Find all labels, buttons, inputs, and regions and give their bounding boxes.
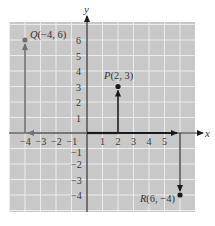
x-tick-label: 1 [100,136,105,147]
point-q-dot [22,37,27,42]
x-axis-label: x [204,127,210,139]
point-r-label: R(6, −4) [139,193,176,205]
y-tick-label: 4 [76,66,81,77]
y-tick-label: 3 [76,82,81,93]
point-p-label: P(2, 3) [103,70,134,82]
point-r-dot [177,192,182,197]
x-tick-label: −1 [67,136,78,147]
x-tick-label: 5 [162,136,167,147]
x-tick-label: 3 [131,136,136,147]
x-tick-label: 4 [147,136,152,147]
x-tick-label: −2 [51,136,62,147]
y-tick-label: −3 [71,175,82,186]
y-axis-label: y [83,3,89,15]
y-tick-label: −4 [71,190,82,201]
y-tick-label: −1 [71,147,82,158]
point-p-dot [115,84,120,89]
x-tick-label: −3 [36,136,47,147]
y-tick-label: −2 [71,159,82,170]
x-tick-label: 2 [116,136,121,147]
y-tick-label: 5 [76,51,81,62]
point-q-label: Q(−4, 6) [30,29,67,41]
y-tick-label: 2 [76,97,81,108]
y-tick-label: 1 [76,113,81,124]
x-tick-label: −4 [20,136,31,147]
y-tick-label: 6 [76,35,81,46]
coordinate-plane-figure: xy −4−3−2−112345654321−1−2−3−4 Q(−4, 6)P… [0,0,215,226]
